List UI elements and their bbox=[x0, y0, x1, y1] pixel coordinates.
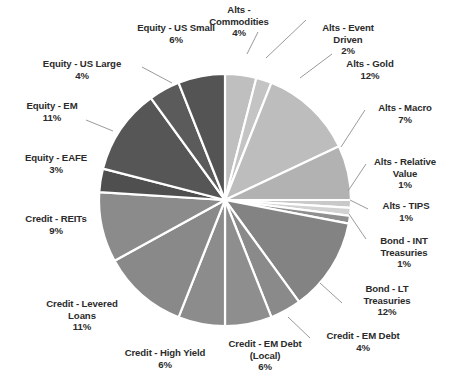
leader-line-gold bbox=[300, 54, 332, 78]
slice-label-equity-em: Equity - EM 11% bbox=[10, 100, 94, 123]
slice-label-equity-eafe: Equity - EAFE 3% bbox=[10, 152, 102, 175]
slice-label-credit-high-yield: Credit - High Yield 6% bbox=[112, 347, 218, 370]
pie-chart: Alts - Commodities 4% Alts - Event Drive… bbox=[0, 0, 449, 392]
slice-label-bond-lt-treasuries: Bond - LT Treasuries 12% bbox=[344, 283, 430, 318]
slice-label-credit-em-debt-local: Credit - EM Debt (Local) 6% bbox=[214, 338, 316, 373]
leader-line-us-large bbox=[142, 67, 172, 83]
slice-label-alts-tips: Alts - TIPS 1% bbox=[366, 200, 446, 223]
leader-line-em-debt bbox=[288, 317, 310, 338]
leader-line-lt-treasuries bbox=[320, 283, 342, 303]
slice-label-bond-int-treasuries: Bond - INT Treasuries 1% bbox=[362, 235, 446, 270]
slice-label-alts-gold: Alts - Gold 12% bbox=[330, 58, 410, 81]
slice-label-equity-us-large: Equity - US Large 4% bbox=[26, 58, 138, 81]
slice-label-credit-levered-loans: Credit - Levered Loans 11% bbox=[36, 298, 128, 333]
slice-label-alts-macro: Alts - Macro 7% bbox=[364, 102, 446, 125]
slice-label-alts-event-driven: Alts - Event Driven 2% bbox=[306, 22, 390, 57]
pie-slice-group bbox=[99, 74, 351, 326]
slice-label-equity-us-small: Equity - US Small 6% bbox=[120, 22, 232, 45]
slice-label-credit-reits: Credit - REITs 9% bbox=[10, 213, 102, 236]
slice-label-alts-relative-value: Alts - Relative Value 1% bbox=[362, 156, 448, 191]
leader-line-macro bbox=[341, 110, 365, 147]
slice-label-credit-em-debt: Credit - EM Debt 4% bbox=[312, 330, 414, 353]
